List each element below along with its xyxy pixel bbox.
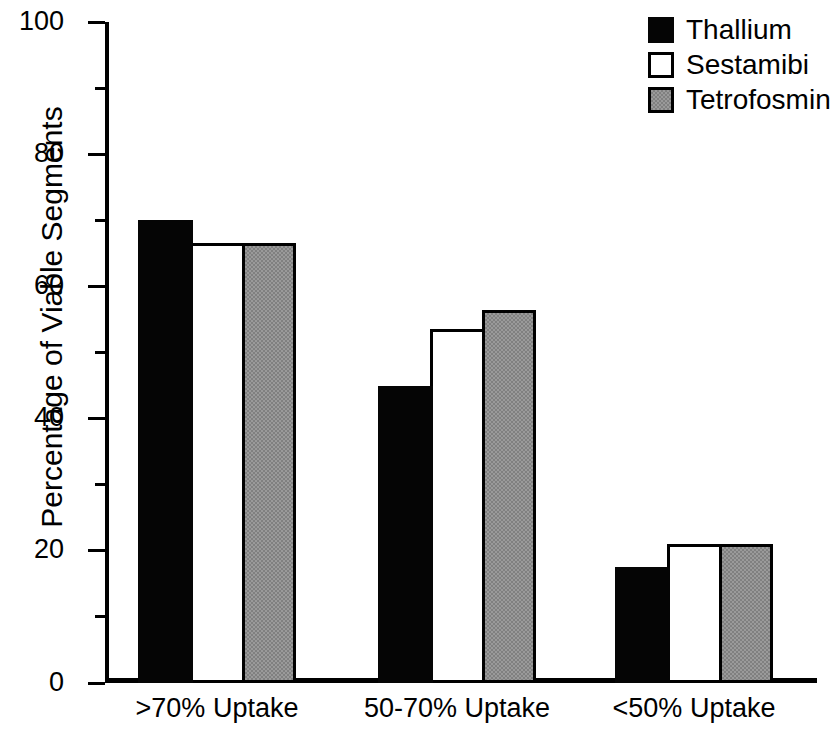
bar-tetrofosmin-3: [719, 544, 773, 683]
bar-sestamibi-3: [667, 544, 722, 683]
legend-swatch-icon-thallium: [648, 17, 674, 43]
legend-swatch-icon-tetrofosmin: [648, 87, 674, 113]
y-tick-minor: [95, 483, 105, 486]
bar-tetrofosmin-2: [482, 310, 536, 683]
legend-label-sestamibi: Sestamibi: [686, 51, 809, 79]
y-tick-minor: [95, 351, 105, 354]
x-axis-label: 50-70% Uptake: [364, 693, 550, 724]
bar-thallium-2: [378, 386, 433, 683]
legend-item-tetrofosmin[interactable]: Tetrofosmin: [648, 86, 831, 114]
y-tick-major: 40: [88, 417, 105, 420]
y-tick-minor: [95, 87, 105, 90]
y-axis-line: [105, 22, 109, 683]
legend-item-thallium[interactable]: Thallium: [648, 16, 831, 44]
x-axis-label: <50% Uptake: [613, 693, 776, 724]
y-tick-major: 0: [88, 682, 105, 685]
legend-label-thallium: Thallium: [686, 16, 792, 44]
x-axis-label: >70% Uptake: [136, 693, 299, 724]
bar-sestamibi-2: [430, 329, 485, 683]
bar-sestamibi-1: [190, 243, 245, 683]
plot-area: 020406080100 >70% Uptake50-70% Uptake<50…: [105, 22, 817, 683]
y-tick-minor: [95, 219, 105, 222]
bar-thallium-1: [138, 220, 193, 683]
y-tick-major: 60: [88, 285, 105, 288]
bar-tetrofosmin-1: [242, 243, 296, 683]
legend-label-tetrofosmin: Tetrofosmin: [686, 86, 831, 114]
bar-chart: Percentage of Viable Segments 0204060801…: [0, 0, 832, 736]
y-tick-major: 100: [88, 21, 105, 24]
y-tick-label: 20: [34, 534, 64, 565]
y-tick-major: 80: [88, 153, 105, 156]
legend-swatch-icon-sestamibi: [648, 52, 674, 78]
y-tick-label: 100: [19, 5, 64, 36]
y-tick-major: 20: [88, 549, 105, 552]
legend: Thallium Sestamibi Tetrofosmin: [648, 16, 831, 114]
legend-item-sestamibi[interactable]: Sestamibi: [648, 51, 831, 79]
y-tick-label: 0: [49, 666, 64, 697]
y-tick-label: 40: [34, 402, 64, 433]
bar-thallium-3: [615, 567, 670, 683]
y-tick-minor: [95, 615, 105, 618]
y-tick-label: 80: [34, 137, 64, 168]
y-tick-label: 60: [34, 269, 64, 300]
